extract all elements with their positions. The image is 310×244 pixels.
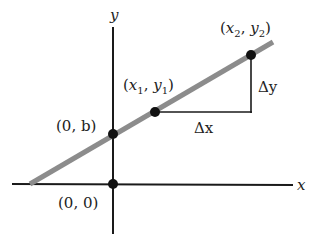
y-intercept-label: (0, b)	[56, 117, 96, 135]
point-2-label: (x2, y2)	[220, 19, 271, 39]
delta-x-label: Δx	[194, 119, 214, 137]
origin-label: (0, 0)	[58, 194, 98, 212]
x-axis	[12, 184, 293, 185]
point-1	[150, 107, 160, 117]
point-1-label: (x1, y1)	[123, 76, 174, 96]
x-axis-label: x	[297, 176, 306, 194]
point-2	[246, 50, 256, 60]
y-intercept-point	[108, 129, 118, 139]
origin-point	[108, 179, 118, 189]
y-axis-label: y	[109, 6, 119, 24]
coordinate-diagram: y x (0, 0) (0, b) (x1, y1) (x2, y2) Δx Δ…	[0, 0, 310, 244]
delta-y-label: Δy	[258, 78, 278, 96]
